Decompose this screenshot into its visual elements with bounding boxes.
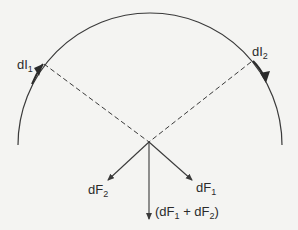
force-vector-dF2 [108,142,149,180]
label-dF1: dF1 [196,180,216,197]
force-vector-dF1 [149,142,192,180]
label-dI1: dI1 [17,57,33,74]
current-segment-dI2 [253,61,265,78]
radius-line-dI2 [149,62,251,142]
current-loop-arc [18,13,282,145]
label-dI2: dI2 [252,44,268,61]
label-resultant: (dF1 + dF2) [155,204,219,221]
label-dF2: dF2 [88,182,108,199]
radius-line-dI1 [44,64,149,142]
magnetic-force-diagram: dI1 dI2 dF2 dF1 (dF1 + dF2) [0,0,298,230]
